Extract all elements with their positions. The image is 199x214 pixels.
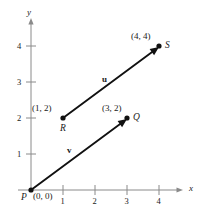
- point-Q-name: Q: [133, 113, 140, 123]
- point-R-dot: [60, 115, 65, 120]
- y-axis-arrowhead: [28, 18, 33, 25]
- point-R-name: R: [60, 124, 66, 134]
- y-tick-label-3: 3: [17, 78, 21, 87]
- x-axis-arrowhead: [177, 187, 184, 192]
- x-tick-label-1: 1: [61, 197, 65, 206]
- y-tick-label-2: 2: [17, 114, 21, 123]
- x-tick-label-3: 3: [125, 197, 129, 206]
- point-P-coord: (0, 0): [33, 192, 53, 201]
- point-S-coord: (4, 4): [131, 32, 151, 41]
- point-S-name: S: [165, 41, 170, 51]
- vector-v-shaft: [31, 122, 124, 191]
- y-tick-label-4: 4: [17, 42, 21, 51]
- point-Q-dot: [124, 115, 129, 120]
- vector-u-label: u: [102, 75, 107, 84]
- point-R-coord: (1, 2): [32, 104, 52, 113]
- vector-v-label: v: [67, 146, 72, 155]
- x-tick-label-2: 2: [93, 197, 97, 206]
- diagram-canvas: [0, 0, 199, 214]
- x-tick-label-4: 4: [157, 197, 161, 206]
- vector-diagram: y x 1 2 3 4 1 2 3 4 P (0, 0) (1, 2) R (3…: [0, 0, 199, 214]
- point-P-name: P: [21, 193, 27, 203]
- point-S-dot: [156, 43, 161, 48]
- y-tick-label-1: 1: [17, 150, 21, 159]
- y-axis-label: y: [27, 8, 31, 17]
- point-Q-coord: (3, 2): [102, 104, 122, 113]
- x-axis-label: x: [189, 184, 193, 193]
